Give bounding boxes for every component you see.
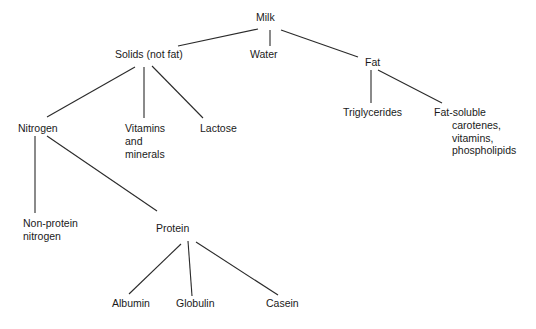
node-label: Protein	[156, 222, 189, 235]
node-globulin: Globulin	[176, 297, 215, 310]
node-label: Milk	[256, 11, 275, 24]
node-label: Fat	[365, 56, 380, 69]
node-label: Albumin	[112, 297, 150, 310]
edge-milk-fat	[281, 30, 358, 57]
node-water: Water	[250, 48, 278, 61]
node-milk: Milk	[256, 11, 275, 24]
node-label: Nitrogen	[18, 122, 58, 135]
node-label-line-2: carotenes,	[434, 119, 516, 132]
node-label-line-2: nitrogen	[23, 230, 78, 243]
node-vitamins-and-minerals: Vitamins and minerals	[125, 122, 165, 160]
edge-solids-lactose	[152, 66, 203, 118]
node-label-line-1: Non-protein	[23, 217, 78, 230]
node-label: Lactose	[200, 122, 237, 135]
node-nitrogen: Nitrogen	[18, 122, 58, 135]
node-casein: Casein	[266, 297, 299, 310]
node-label: Solids (not fat)	[115, 48, 183, 61]
node-label: Triglycerides	[343, 106, 402, 119]
node-label-line-1: Fat-soluble	[434, 106, 516, 119]
edge-protein-globulin	[188, 241, 192, 296]
node-triglycerides: Triglycerides	[343, 106, 402, 119]
milk-composition-diagram: Milk Solids (not fat) Water Fat Nitrogen…	[0, 0, 536, 329]
node-label: Globulin	[176, 297, 215, 310]
node-label: Water	[250, 48, 278, 61]
node-label-line-3: minerals	[125, 148, 165, 161]
node-fat-soluble: Fat-soluble carotenes, vitamins, phospho…	[434, 106, 516, 157]
node-lactose: Lactose	[200, 122, 237, 135]
edge-protein-albumin	[129, 244, 181, 294]
edge-milk-solids	[178, 29, 258, 46]
node-label-line-2: and	[125, 135, 165, 148]
node-label: Casein	[266, 297, 299, 310]
edge-protein-casein	[196, 242, 278, 295]
node-non-protein-nitrogen: Non-protein nitrogen	[23, 217, 78, 243]
node-fat: Fat	[365, 56, 380, 69]
node-protein: Protein	[156, 222, 189, 235]
node-solids-not-fat: Solids (not fat)	[115, 48, 183, 61]
edge-solids-nitrogen	[47, 67, 135, 117]
node-albumin: Albumin	[112, 297, 150, 310]
node-label-line-4: phospholipids	[434, 144, 516, 157]
node-label-line-3: vitamins,	[434, 132, 516, 145]
node-label-line-1: Vitamins	[125, 122, 165, 135]
edge-fat-fatsoluble	[378, 70, 442, 103]
